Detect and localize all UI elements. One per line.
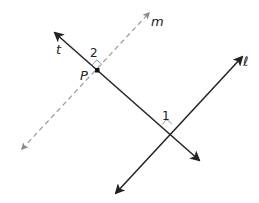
- label-m: m: [151, 14, 164, 29]
- point-p-dot: [95, 68, 100, 73]
- line-t: [55, 33, 199, 160]
- geometry-diagram: t m ℓ P 2 1: [0, 0, 259, 203]
- label-point-p: P: [80, 68, 88, 83]
- line-l: [116, 57, 242, 193]
- label-l: ℓ: [242, 54, 248, 69]
- label-angle-1: 1: [162, 109, 170, 123]
- label-angle-2: 2: [90, 46, 98, 60]
- label-t: t: [56, 42, 62, 57]
